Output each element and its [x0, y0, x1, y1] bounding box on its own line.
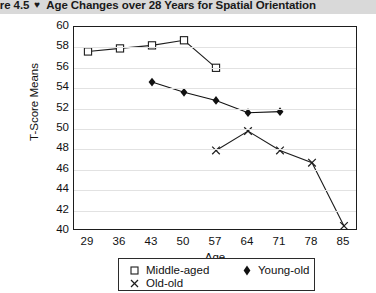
data-point-filled-diamond — [245, 108, 252, 117]
y-axis-tick: 50 — [29, 122, 69, 134]
gridline — [74, 190, 356, 191]
data-point-filled-diamond — [149, 78, 156, 87]
gridline — [74, 88, 356, 89]
y-axis-tick: 56 — [29, 61, 69, 73]
y-axis-tick: 42 — [29, 204, 69, 216]
gridline — [74, 149, 356, 150]
y-axis-tick: 44 — [29, 183, 69, 195]
filled-diamond-icon — [240, 265, 253, 276]
y-axis-tick: 46 — [29, 163, 69, 175]
data-point-filled-diamond — [213, 96, 220, 105]
gridline — [74, 68, 356, 69]
y-axis-tick: 60 — [29, 20, 69, 32]
y-axis-tick: 54 — [29, 81, 69, 93]
data-point-filled-diamond — [181, 88, 188, 97]
data-point-open-square — [84, 48, 91, 55]
y-axis-tick: 48 — [29, 142, 69, 154]
data-point-cross — [308, 159, 316, 167]
series-0 — [84, 37, 219, 72]
data-point-open-square — [116, 45, 123, 52]
x-axis-tick: 85 — [323, 235, 363, 247]
gridline — [74, 109, 356, 110]
plot-area — [73, 26, 357, 230]
legend-item-label: Middle-aged — [146, 264, 209, 276]
data-point-cross — [276, 147, 284, 155]
series-line — [216, 131, 344, 226]
legend-item-label: Old-old — [146, 277, 183, 289]
cross-icon — [128, 279, 141, 288]
data-point-open-square — [180, 37, 187, 44]
legend-item-label: Young-old — [258, 264, 309, 276]
y-axis-tick: 52 — [29, 102, 69, 114]
y-axis-tick: 40 — [29, 224, 69, 236]
data-point-cross — [340, 222, 348, 230]
legend-item-middle-aged[interactable]: Middle-aged — [128, 264, 209, 276]
open-square-icon — [128, 266, 141, 275]
legend-item-old-old[interactable]: Old-old — [128, 277, 183, 289]
gridline — [74, 47, 356, 48]
gridline — [74, 129, 356, 130]
legend-item-young-old[interactable]: Young-old — [240, 264, 309, 276]
y-axis-tick-labels: 6058565452504846444240 — [27, 26, 69, 230]
gridline — [74, 170, 356, 171]
y-axis-tick: 58 — [29, 40, 69, 52]
series-2 — [212, 127, 348, 229]
x-axis-tick-labels: 293643505764717885 — [73, 235, 357, 249]
chart-legend: Middle-agedYoung-oldOld-old — [118, 258, 315, 291]
series-1 — [149, 78, 284, 117]
gridline — [74, 211, 356, 212]
data-point-cross — [212, 147, 220, 155]
